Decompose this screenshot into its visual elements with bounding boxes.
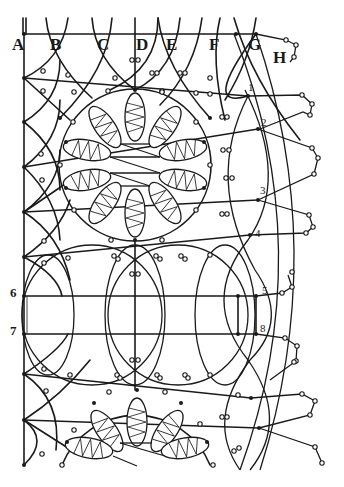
left-border — [24, 34, 27, 465]
right-arcs — [224, 34, 294, 470]
label-8: 8 — [260, 322, 266, 334]
label-2: 2 — [261, 116, 267, 128]
label-1: 1 — [248, 81, 254, 93]
top-border — [23, 18, 256, 34]
lace-pattern-diagram: A B C D E F G H 1 2 3 4 5 6 7 8 — [0, 0, 344, 487]
label-d: D — [136, 35, 148, 54]
label-5: 5 — [262, 284, 268, 296]
label-g: G — [248, 35, 261, 54]
left-arcs — [24, 60, 90, 465]
label-a: A — [12, 35, 25, 54]
label-f: F — [209, 35, 219, 54]
label-e: E — [166, 35, 177, 54]
middle-circles — [22, 245, 255, 385]
horizontal-lines — [24, 296, 256, 334]
label-h: H — [273, 48, 286, 67]
lower-flower-petals — [64, 398, 211, 466]
label-3: 3 — [260, 184, 266, 196]
label-4: 4 — [255, 227, 261, 239]
label-7: 7 — [10, 323, 17, 338]
label-c: C — [97, 35, 109, 54]
upper-flower-petals — [62, 93, 209, 237]
label-6: 6 — [10, 285, 17, 300]
label-b: B — [50, 35, 61, 54]
